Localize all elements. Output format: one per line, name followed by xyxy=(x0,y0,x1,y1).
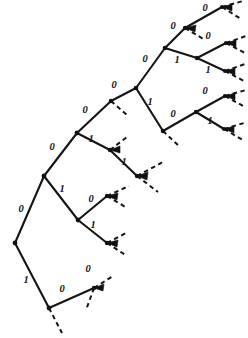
node-dot-00 xyxy=(75,131,80,136)
edge-root-1 xyxy=(15,243,49,308)
node-dot-001 xyxy=(108,148,112,152)
node-dot-00000 xyxy=(163,46,168,51)
node-dot-0000101 xyxy=(222,127,226,131)
edge-label-00000-000001: 1 xyxy=(174,54,179,65)
edge-0000-00000 xyxy=(136,48,165,88)
edge-label-0-00: 0 xyxy=(49,141,55,152)
edge-label-1-10: 0 xyxy=(59,283,65,294)
edge-00001-000010 xyxy=(163,112,196,131)
node-dot-01 xyxy=(76,218,81,223)
edge-000010-0000100 xyxy=(196,96,225,112)
edge-000001-0000010 xyxy=(197,43,226,58)
node-dots xyxy=(13,5,228,311)
node-dot-0011 xyxy=(135,174,139,178)
edge-label-000001-0000010: 0 xyxy=(205,30,211,41)
node-dot-10 xyxy=(92,286,96,290)
edge-0-00 xyxy=(44,133,77,176)
node-dot-0000 xyxy=(134,86,139,91)
node-dot-0 xyxy=(42,174,47,179)
edge-label-001-0011: 1 xyxy=(121,156,126,167)
edge-label-root-1: 1 xyxy=(23,274,28,285)
node-dot-root xyxy=(13,241,18,246)
edge-label-00000-000000: 0 xyxy=(170,20,176,31)
edge-00000-000000 xyxy=(165,28,185,48)
edge-0000-00001 xyxy=(136,88,163,131)
node-dot-000 xyxy=(109,99,114,104)
edge-label-000010-0000100: 0 xyxy=(202,85,208,96)
edge-label-000000-0000000: 0 xyxy=(202,2,208,13)
node-dot-1 xyxy=(47,306,52,311)
edge-label-000010-0000101: 1 xyxy=(207,115,212,126)
dashed-n000-b xyxy=(111,101,128,116)
dashed-n00001-b xyxy=(163,131,180,147)
edge-label-0000-00000: 0 xyxy=(142,53,148,64)
edge-label-0-01: 1 xyxy=(59,183,64,194)
node-dot-0000100 xyxy=(223,94,227,98)
dashed-n1-down xyxy=(49,308,62,333)
node-dot-011 xyxy=(105,241,109,245)
edge-000001-0000011 xyxy=(197,58,225,71)
edge-label-01-011: 1 xyxy=(90,219,95,230)
node-dot-000000 xyxy=(183,26,187,30)
edge-label-n10-a: 0 xyxy=(85,263,91,274)
node-dot-0000000 xyxy=(220,5,224,9)
edge-label-0000-00001: 1 xyxy=(147,96,152,107)
node-dot-0000011 xyxy=(223,69,227,73)
edge-label-00-001: 1 xyxy=(88,133,93,144)
edge-label-000001-0000011: 1 xyxy=(205,64,210,75)
dashed-continuations xyxy=(49,1,246,333)
edge-label-00001-000010: 0 xyxy=(170,108,176,119)
edge-label-root-0: 0 xyxy=(18,203,24,214)
edge-label-000-0000: 0 xyxy=(111,79,117,90)
edge-00000-000001 xyxy=(165,48,197,58)
dashed-n0011-a xyxy=(137,162,163,176)
edge-label-00-000: 0 xyxy=(82,104,88,115)
tree-canvas: 0 1 0 1 0 0 1 0 1 0 0 1 0 1 0 1 0 0 0 1 … xyxy=(0,0,248,338)
node-dot-0000010 xyxy=(224,41,228,45)
binary-tree-diagram: 0 1 0 1 0 0 1 0 1 0 0 1 0 1 0 1 0 0 0 1 … xyxy=(0,0,248,338)
node-dot-000010 xyxy=(194,110,198,114)
node-dot-010 xyxy=(105,194,109,198)
edge-label-01-010: 0 xyxy=(88,193,94,204)
node-dot-000001 xyxy=(195,56,199,60)
node-dot-00001 xyxy=(161,129,166,134)
